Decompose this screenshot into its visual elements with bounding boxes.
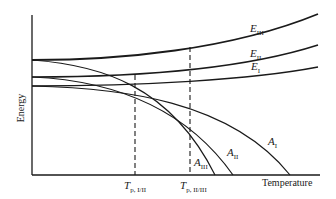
label-tp-ii-iii: Tp, II/III [180,179,207,194]
label-e-iii: EIII [249,22,264,37]
energy-temperature-diagram: EIII EII EI AI AII AIII Tp, I/II Tp, II/… [0,0,336,199]
curve-a-ii [32,77,233,175]
x-axis-label: Temperature [262,177,313,188]
label-a-i: AI [267,135,278,150]
label-a-ii: AII [226,146,239,161]
y-axis-label: Energy [15,94,26,123]
curve-e-iii [32,14,318,60]
label-e-i: EI [250,60,261,75]
curve-a-i [32,86,290,175]
label-tp-i-ii: Tp, I/II [124,179,147,194]
